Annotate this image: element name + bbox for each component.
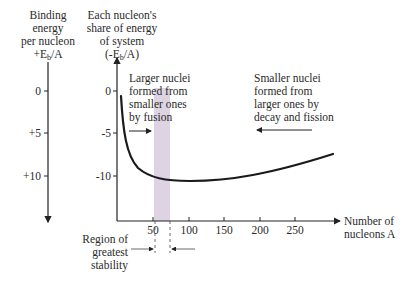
y-tick-minus5: -5 <box>80 127 111 140</box>
x-tick-250: 250 <box>280 224 310 237</box>
fission-line: formed from <box>254 85 334 98</box>
left-tick-0: 0 <box>10 85 41 98</box>
left-tick-5: +5 <box>10 127 41 140</box>
x-axis-label-line: nucleons A <box>344 228 395 241</box>
fission-line: decay and fission <box>254 111 334 124</box>
stability-annotation: Region of greatest stability <box>60 233 128 272</box>
x-axis-label-line: Number of <box>344 215 395 228</box>
fusion-line: by fusion <box>129 111 190 124</box>
left-tick-10: +10 <box>10 170 41 183</box>
stability-line: greatest <box>60 246 128 259</box>
x-tick-50: 50 <box>138 224 168 237</box>
x-tick-100: 100 <box>174 224 204 237</box>
fission-line: Smaller nuclei <box>254 72 334 85</box>
x-tick-200: 200 <box>245 224 275 237</box>
fission-annotation: Smaller nuclei formed from larger ones b… <box>254 72 334 124</box>
fusion-annotation: Larger nuclei formed from smaller ones b… <box>129 72 190 124</box>
stability-line: Region of <box>60 233 128 246</box>
y-tick-0: 0 <box>80 85 111 98</box>
fission-line: larger ones by <box>254 98 334 111</box>
x-axis-label: Number of nucleons A <box>344 215 395 241</box>
fusion-line: formed from <box>129 85 190 98</box>
fusion-line: Larger nuclei <box>129 72 190 85</box>
x-tick-150: 150 <box>209 224 239 237</box>
fusion-line: smaller ones <box>129 98 190 111</box>
y-tick-minus10: -10 <box>80 170 111 183</box>
stability-line: stability <box>60 259 128 272</box>
